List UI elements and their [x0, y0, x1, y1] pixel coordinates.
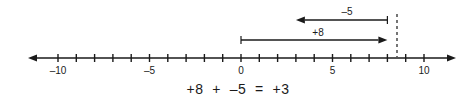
axis-tick-label: 0	[238, 65, 244, 76]
axis-tick-label: 5	[330, 65, 336, 76]
axis-right-arrowhead	[447, 54, 456, 61]
second-jump-arrowhead	[296, 17, 305, 24]
axis-tick-label: –10	[50, 65, 67, 76]
axis-tick-label: 10	[418, 65, 430, 76]
second-jump-label: –5	[341, 6, 353, 17]
axis-tick-label: –5	[144, 65, 156, 76]
first-jump-arrowhead	[378, 37, 387, 44]
equation-text: +8 + –5 = +3	[0, 81, 476, 97]
number-line-figure: –10–50510+8–5 +8 + –5 = +3	[0, 0, 476, 105]
axis-left-arrowhead	[28, 54, 37, 61]
first-jump-label: +8	[312, 27, 324, 38]
